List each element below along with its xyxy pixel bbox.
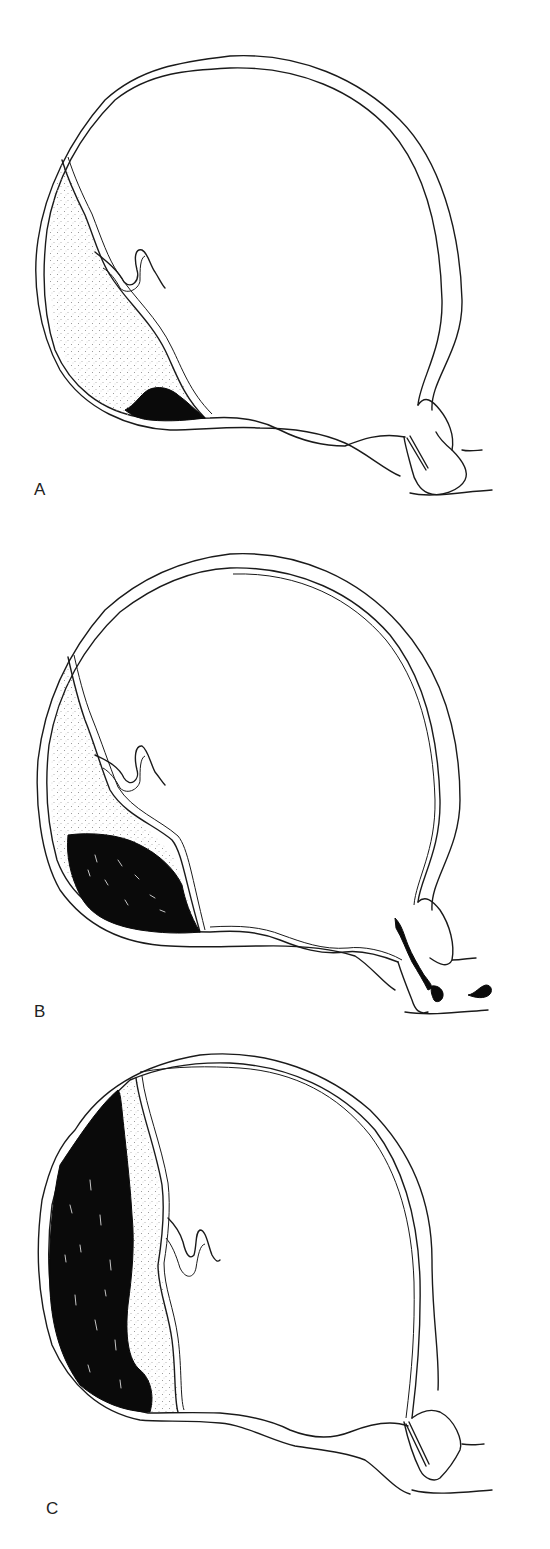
vagina-upper <box>462 1444 484 1445</box>
cervix-anterior-lip <box>418 400 453 450</box>
cervix <box>404 1410 461 1480</box>
uterine-wall-inner-2 <box>140 1067 414 1418</box>
cervix <box>398 899 453 1013</box>
vagina-upper <box>452 958 476 960</box>
panel-label-a: A <box>34 481 45 498</box>
panel-a-uterus <box>36 56 492 495</box>
cervical-blood-track <box>395 918 432 990</box>
vagina-lower <box>412 1490 492 1493</box>
panel-c-uterus <box>38 1054 492 1494</box>
blood-drop-icon <box>431 986 443 1002</box>
umbilical-cord-edge <box>166 1238 205 1276</box>
blood-drop-icon <box>468 985 491 998</box>
panel-label-b: B <box>34 1003 45 1020</box>
panel-b-uterus <box>37 554 491 1014</box>
figure-canvas <box>0 0 550 1549</box>
umbilical-cord-edge <box>103 756 145 791</box>
uterine-wall-inner-2 <box>210 574 435 960</box>
panel-label-c: C <box>46 1500 58 1517</box>
abruption-figure: A B C <box>0 0 550 1549</box>
vagina-upper <box>462 450 482 451</box>
